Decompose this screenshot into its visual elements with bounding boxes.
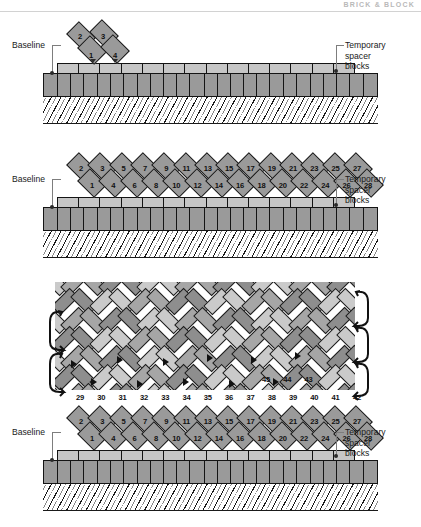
- spacer-block: [58, 451, 79, 460]
- baseline-leader-v: [52, 179, 53, 207]
- spacer-block: [122, 451, 143, 460]
- panel-step-1: 2 3 1 4 Baseline Temporary spacer blocks: [0, 14, 421, 140]
- brick-field-2: 2357911131517192123252714681012141618202…: [0, 148, 421, 274]
- wall-block: [84, 461, 97, 483]
- p3-brick-number: 3: [100, 418, 104, 426]
- spacer-block: [249, 451, 270, 460]
- p3-course3-brick-number: 32: [140, 394, 148, 402]
- wall-block: [284, 74, 297, 96]
- p2-brick-number: 1: [90, 182, 94, 190]
- p3-brick-number: 2: [79, 418, 83, 426]
- p3-course3-brick-number: 40: [310, 394, 318, 402]
- spacer-block: [100, 451, 121, 460]
- wall-block: [218, 461, 231, 483]
- baseline-leader-h: [52, 45, 61, 46]
- p2-brick-number: 20: [279, 182, 287, 190]
- p2-brick-number: 2: [79, 165, 83, 173]
- p2-brick-number: 12: [194, 182, 202, 190]
- wall-block: [111, 74, 124, 96]
- p3-brick-number: 17: [246, 418, 254, 426]
- spacer-leader-h: [336, 432, 344, 433]
- p2-brick-number: 15: [225, 165, 233, 173]
- wall-block: [257, 461, 270, 483]
- p2-brick-number: 13: [204, 165, 212, 173]
- panel-step-2: 2357911131517192123252714681012141618202…: [0, 148, 421, 274]
- wall-course-1: [43, 73, 378, 97]
- baseline-leader-h: [52, 179, 61, 180]
- p3-brick-number: 5: [122, 418, 126, 426]
- spacer-block: [164, 64, 185, 73]
- brick-seat-arrow: [112, 59, 118, 63]
- right-brackets: [348, 288, 378, 402]
- p2-brick-number: 8: [154, 182, 158, 190]
- header-rule: [0, 11, 421, 12]
- p3-course3-brick-number: 30: [97, 394, 105, 402]
- spacer-point: [334, 203, 338, 207]
- p2-brick-number: 25: [332, 165, 340, 173]
- spacer-block: [207, 451, 228, 460]
- p3-brick-number: 21: [289, 418, 297, 426]
- baseline-label-2: Baseline: [12, 174, 45, 185]
- p3-course4-brick-number: 45: [262, 376, 270, 384]
- spacer-block: [313, 451, 334, 460]
- wall-block: [231, 74, 244, 96]
- p3-brick-number: 12: [194, 435, 202, 443]
- wall-block: [177, 461, 190, 483]
- wall-block: [84, 74, 97, 96]
- wall-block: [190, 74, 204, 96]
- p3-brick-number: 14: [215, 435, 223, 443]
- p3-course3-brick-number: 39: [289, 394, 297, 402]
- spacer-block: [270, 64, 291, 73]
- wall-block: [164, 461, 177, 483]
- baseline-point: [50, 205, 54, 209]
- wall-block: [270, 461, 284, 483]
- p3-course3-brick-number: 38: [268, 394, 276, 402]
- wall-block: [324, 461, 337, 483]
- wall-block: [350, 74, 364, 96]
- p3-brick-number: 19: [268, 418, 276, 426]
- brick-number-3: 3: [101, 33, 105, 41]
- wall-block: [58, 461, 71, 483]
- wall-block: [151, 74, 164, 96]
- spacer-block: [207, 64, 228, 73]
- p2-brick-number: 16: [236, 182, 244, 190]
- p3-brick-number: 20: [279, 435, 287, 443]
- spacer-block: [249, 64, 270, 73]
- spacer-block: [185, 64, 206, 73]
- baseline-leader-v: [52, 432, 53, 460]
- wall-block: [311, 74, 324, 96]
- p3-brick-number: 13: [204, 418, 212, 426]
- p2-brick-number: 10: [172, 182, 180, 190]
- wall-block: [44, 74, 58, 96]
- brick-number-2: 2: [78, 33, 82, 41]
- p3-course3-brick-number: 34: [183, 394, 191, 402]
- p3-brick-number: 1: [90, 435, 94, 443]
- p3-brick-number: 4: [111, 435, 115, 443]
- wall-block: [297, 74, 310, 96]
- spacer-block: [313, 64, 334, 73]
- wall-block: [297, 461, 310, 483]
- p3-course3-brick-number: 29: [76, 394, 84, 402]
- baseline-point: [50, 458, 54, 462]
- wall-block: [337, 461, 350, 483]
- wall-block: [364, 461, 377, 483]
- p2-brick-number: 18: [257, 182, 265, 190]
- wall-block: [177, 74, 190, 96]
- brick-seat-arrow: [90, 59, 96, 63]
- spacer-block: [228, 64, 249, 73]
- spacer-block: [79, 64, 100, 73]
- spacer-block: [185, 451, 206, 460]
- p3-course3-brick-number: 33: [161, 394, 169, 402]
- spacer-label-3: Temporary spacer blocks: [345, 427, 419, 459]
- p3-brick-number: 24: [321, 435, 329, 443]
- p3-brick-number: 27: [353, 418, 361, 426]
- wall-course-3: [43, 460, 378, 484]
- wall-block: [71, 74, 84, 96]
- spacer-point: [334, 454, 338, 458]
- p3-course3-brick-number: 35: [204, 394, 212, 402]
- spacer-leader-h: [336, 45, 344, 46]
- spacer-leader-v: [336, 45, 337, 71]
- p3-course3-brick-number: 31: [119, 394, 127, 402]
- p2-brick-number: 9: [164, 165, 168, 173]
- running-head-text: BRICK & BLOCK: [285, 0, 415, 9]
